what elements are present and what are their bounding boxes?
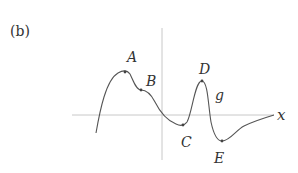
point-label-a: A — [125, 49, 137, 65]
point-label-b: B — [145, 73, 156, 89]
panel-label: (b) — [10, 23, 30, 39]
x-axis-label: x — [277, 106, 286, 124]
curve-g — [96, 71, 274, 141]
function-label: g — [215, 87, 224, 103]
point-label-e: E — [213, 150, 224, 166]
function-graph: (b) A B C D E g x — [0, 0, 298, 173]
point-label-c: C — [181, 134, 192, 150]
point-markers — [124, 71, 224, 143]
point-label-d: D — [198, 61, 210, 77]
